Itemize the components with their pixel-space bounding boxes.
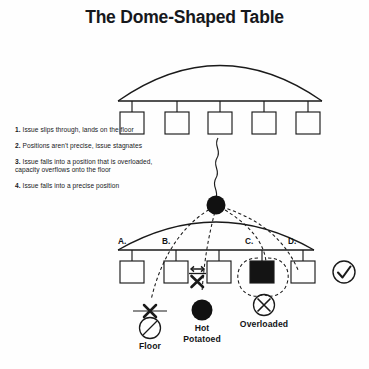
overloaded-label: Overloaded <box>224 319 304 330</box>
legend-item-1-text: Issue slips through, lands on the floor <box>23 126 134 133</box>
legend-item-1-number: 1. <box>15 126 21 133</box>
legend-list: 1. Issue slips through, lands on the flo… <box>15 126 175 198</box>
path-label-d: D. <box>288 236 297 246</box>
upper-position-box-4 <box>252 112 276 134</box>
legend-item-2-number: 2. <box>15 142 21 149</box>
upper-position-box-5 <box>296 112 320 134</box>
legend-item-1: 1. Issue slips through, lands on the flo… <box>15 126 175 135</box>
check-mark <box>338 267 351 278</box>
hot-potato-x <box>192 276 204 287</box>
issue-dot <box>207 196 226 215</box>
lower-position-box-1 <box>120 261 144 283</box>
upper-position-box-3 <box>208 112 232 134</box>
lower-dome-arc <box>118 222 314 250</box>
lower-position-box-2 <box>164 261 188 283</box>
issue-path-a <box>151 207 214 300</box>
check-symbol-group <box>333 261 355 283</box>
hot-potato-arrow <box>189 266 206 287</box>
floor-circle-slash <box>143 321 157 335</box>
hot-potatoed-label-line2: Potatoed <box>172 334 232 345</box>
hot-potatoed-circle <box>192 300 213 321</box>
legend-item-2: 2. Positions aren't precise, issue stagn… <box>15 142 175 151</box>
lower-dome-group <box>118 222 315 283</box>
issue-paths <box>151 207 299 300</box>
path-label-b: B. <box>162 236 171 246</box>
hot-potatoed-label-line1: Hot <box>172 323 232 334</box>
overloaded-symbol-group <box>254 295 275 316</box>
hot-potatoed-label: Hot Potatoed <box>172 323 232 344</box>
legend-item-4-text: Issue falls into a precise position <box>23 182 120 189</box>
legend-item-4: 4. Issue falls into a precise position <box>15 182 175 191</box>
lower-position-box-4-overloaded <box>250 261 274 283</box>
upper-dome-arc <box>118 66 322 102</box>
legend-item-3-number: 3. <box>15 158 21 165</box>
path-label-c: C. <box>245 236 254 246</box>
issue-path-c <box>220 207 266 262</box>
upper-dome-group <box>118 66 322 135</box>
diagram-canvas: The Dome-Shaped Table <box>0 0 369 369</box>
path-label-a: A. <box>118 236 127 246</box>
legend-item-4-number: 4. <box>15 182 21 189</box>
legend-item-2-text: Positions aren't precise, issue stagnate… <box>23 142 143 149</box>
squiggle-connector <box>214 138 218 198</box>
lower-position-box-5 <box>291 261 315 283</box>
legend-item-3-text: Issue falls into a position that is over… <box>15 158 152 174</box>
check-circle <box>333 261 355 283</box>
lower-position-box-3 <box>207 261 231 283</box>
overloaded-x <box>258 299 271 312</box>
floor-label: Floor <box>120 341 180 352</box>
floor-symbol-group <box>133 305 167 339</box>
legend-item-3: 3. Issue falls into a position that is o… <box>15 158 175 175</box>
